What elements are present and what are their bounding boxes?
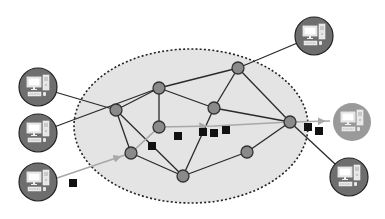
router-node-D <box>208 102 220 114</box>
router-node-B <box>153 82 165 94</box>
router-node-C <box>232 62 244 74</box>
pc-left-bottom <box>19 163 57 201</box>
desktop-computer-icon <box>27 121 49 142</box>
desktop-computer-icon <box>303 24 325 45</box>
desktop-computer-icon <box>341 110 363 131</box>
router-node-A <box>110 104 122 116</box>
router-node-H <box>177 170 189 182</box>
pc-right-destination <box>333 103 371 141</box>
router-node-G <box>125 147 137 159</box>
data-packet <box>199 128 207 136</box>
desktop-computer-icon <box>338 165 360 186</box>
pc-top-right <box>295 17 333 55</box>
pc-left-top <box>19 68 57 106</box>
network-diagram <box>0 0 385 219</box>
data-packet <box>304 123 312 131</box>
network-diagram-canvas <box>0 0 385 219</box>
router-node-E <box>284 116 296 128</box>
data-packet <box>210 129 218 137</box>
data-packet <box>222 126 230 134</box>
router-node-F <box>153 121 165 133</box>
desktop-computer-icon <box>27 170 49 191</box>
data-packet <box>69 179 77 187</box>
pc-bottom-right <box>330 158 368 196</box>
data-packet <box>174 132 182 140</box>
data-packet <box>315 127 323 135</box>
data-packet <box>148 142 156 150</box>
pc-left-mid <box>19 114 57 152</box>
router-node-I <box>241 146 253 158</box>
desktop-computer-icon <box>27 75 49 96</box>
